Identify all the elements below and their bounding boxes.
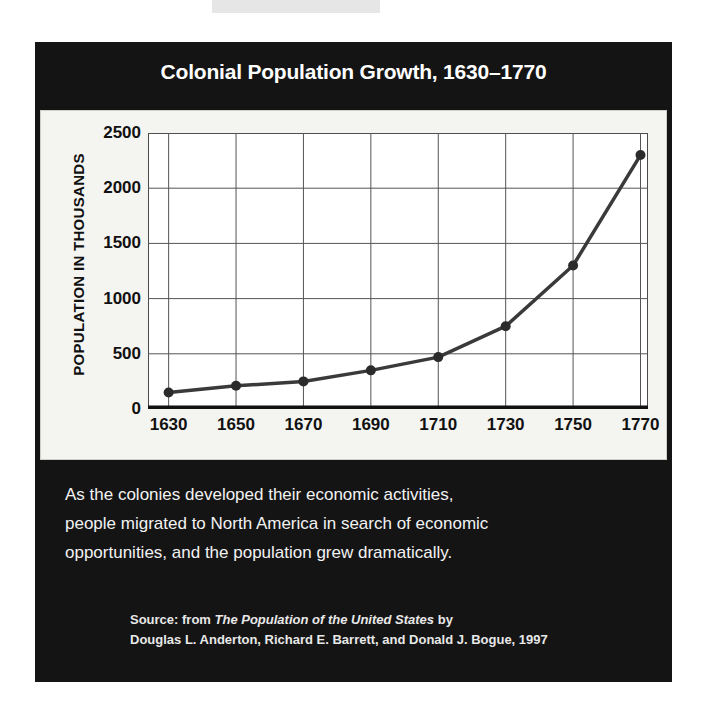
- y-tick-label: 500: [45, 344, 141, 364]
- description-line-3: opportunities, and the population grew d…: [65, 538, 655, 567]
- y-tick-label: 0: [45, 399, 141, 419]
- source-line-2: Douglas L. Anderton, Richard E. Barrett,…: [130, 630, 630, 650]
- x-tick-label: 1770: [601, 415, 681, 435]
- data-point-marker: [298, 376, 308, 386]
- y-tick-label: 2500: [45, 123, 141, 143]
- data-point-marker: [636, 150, 646, 160]
- data-point-marker: [164, 387, 174, 397]
- y-tick-label: 2000: [45, 178, 141, 198]
- y-axis-tick-labels: 2500 2000 1500 1000 500 0: [41, 133, 141, 409]
- plot-area: [148, 133, 648, 409]
- line-chart-svg: [148, 133, 648, 409]
- source-work-title: The Population of the United States: [215, 612, 435, 627]
- description-line-2: people migrated to North America in sear…: [65, 509, 655, 538]
- scan-artifact-band: [212, 0, 380, 13]
- y-tick-label: 1500: [45, 233, 141, 253]
- data-point-marker: [433, 352, 443, 362]
- data-point-marker: [501, 321, 511, 331]
- source-by: by: [434, 612, 453, 627]
- chart-card: POPULATION IN THOUSANDS 2500 2000 1500 1…: [40, 110, 667, 460]
- y-tick-label: 1000: [45, 289, 141, 309]
- source-prefix: Source: from: [130, 612, 215, 627]
- data-point-marker: [231, 381, 241, 391]
- source-line-1: Source: from The Population of the Unite…: [130, 610, 630, 630]
- data-point-marker: [568, 260, 578, 270]
- description-line-1: As the colonies developed their economic…: [65, 480, 655, 509]
- page-title: Colonial Population Growth, 1630–1770: [35, 60, 672, 84]
- infographic-panel: Colonial Population Growth, 1630–1770 PO…: [35, 42, 672, 682]
- source-citation: Source: from The Population of the Unite…: [130, 610, 630, 650]
- x-axis-tick-labels: 16301650167016901710173017501770: [148, 415, 648, 443]
- data-point-marker: [366, 365, 376, 375]
- description-text: As the colonies developed their economic…: [65, 480, 655, 567]
